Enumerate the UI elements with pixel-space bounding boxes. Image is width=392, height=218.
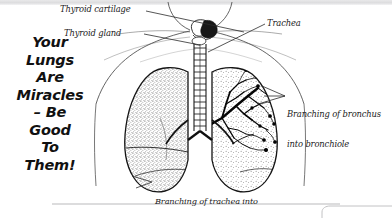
label-branching-bronchus-line-2: into bronchiole [287, 139, 381, 149]
carina [188, 131, 212, 140]
label-branching-bronchi-line-1: Branching of trachea into [155, 196, 258, 206]
label-branching-bronchus-line-1: Branching of bronchus [287, 109, 381, 119]
right-lung-bronchial-tree [208, 68, 277, 192]
slogan-line-4: Miracles [4, 87, 96, 105]
lungs-poster: Your Lungs Are Miracles – Be Good To The… [0, 0, 392, 218]
label-branching-bronchus: Branching of bronchus into bronchiole [287, 89, 381, 169]
slogan-block: Your Lungs Are Miracles – Be Good To The… [4, 34, 96, 174]
label-branching-bronchi: Branching of trachea into right and left… [155, 176, 258, 218]
slogan-line-6: Good [4, 122, 96, 140]
label-thyroid-cartilage: Thyroid cartilage [60, 4, 131, 14]
slogan-line-3: Are [4, 69, 96, 87]
slogan-line-7: To [4, 139, 96, 157]
label-thyroid-gland: Thyroid gland [64, 28, 121, 38]
left-lung [125, 68, 188, 192]
slogan-line-2: Lungs [4, 52, 96, 70]
slogan-line-8: Them! [4, 157, 96, 175]
label-trachea: Trachea [267, 18, 301, 28]
slogan-line-5: – Be [4, 104, 96, 122]
trachea [194, 44, 206, 131]
